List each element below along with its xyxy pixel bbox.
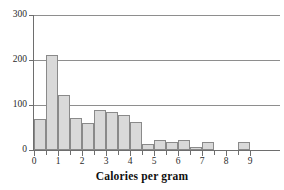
x-axis-tick-label: 1 [51,157,65,167]
histogram-bar [202,142,214,150]
x-axis-tick-label: 8 [219,157,233,167]
x-axis-tick-minor [70,151,71,155]
x-axis-tick-label: 0 [27,157,41,167]
y-axis-tick-label: 0 [0,145,27,155]
histogram-bar [118,115,130,150]
plot-area [34,16,280,150]
histogram-bar [106,112,118,150]
x-axis-tick-minor [238,151,239,155]
x-axis-tick-label: 9 [243,157,257,167]
x-axis-tick-label: 3 [99,157,113,167]
histogram-bar [166,142,178,150]
histogram-bar [46,55,58,150]
histogram-bar [154,140,166,150]
histogram-bar [94,110,106,150]
x-axis-tick-minor [142,151,143,155]
y-axis-tick-label: 300 [0,10,27,20]
histogram-bar [58,95,70,150]
histogram-bar [142,144,154,150]
x-axis-tick-label: 2 [75,157,89,167]
x-axis-tick-minor [46,151,47,155]
y-axis-tick-label: 100 [0,100,27,110]
histogram-bar [82,123,94,150]
histogram-bar [34,119,46,150]
histogram-bar [70,118,82,150]
x-axis-tick-label: 4 [123,157,137,167]
histogram-bar [130,122,142,150]
x-axis-tick-label: 6 [171,157,185,167]
x-axis-tick-label: 5 [147,157,161,167]
histogram-bar [190,147,202,150]
x-axis-tick-label: 7 [195,157,209,167]
x-axis-tick-minor [118,151,119,155]
histogram-bar [178,140,190,150]
x-axis-tick-minor [214,151,215,155]
x-axis-title: Calories per gram [0,170,284,182]
x-axis-tick-minor [166,151,167,155]
x-axis-tick-minor [94,151,95,155]
y-axis-tick-label: 200 [0,55,27,65]
histogram-figure: 0100200300 0123456789 Calories per gram [0,0,284,190]
histogram-bar [238,142,250,150]
x-axis-tick-minor [190,151,191,155]
